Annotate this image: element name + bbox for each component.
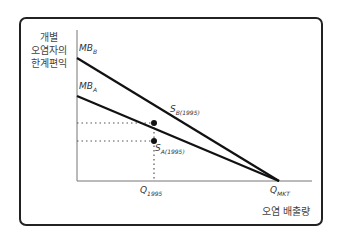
mb-a-label: MBA: [79, 81, 97, 93]
y-label-line: 개별: [24, 31, 74, 44]
y-label-line: 오염자의: [24, 44, 74, 57]
sa-1995-label: SA(1995): [155, 143, 185, 155]
y-axis-label: 개별 오염자의 한계편익: [24, 31, 74, 70]
x-axis-label: 오염 배출량: [262, 203, 310, 218]
mb-b-label: MBB: [79, 43, 97, 55]
sb-1995-label: SB(1995): [170, 104, 200, 116]
mb-b-curve: [77, 58, 279, 181]
qmkt-tick-label: QMKT: [270, 185, 290, 197]
y-label-line: 한계편익: [24, 57, 74, 70]
point-sb-1995: [151, 120, 157, 126]
q1995-tick-label: Q1995: [140, 185, 162, 197]
